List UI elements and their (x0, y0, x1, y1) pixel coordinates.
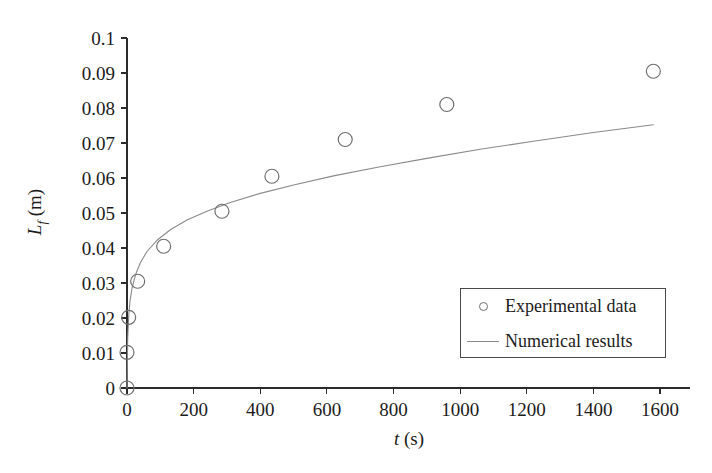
experimental-data-point (646, 64, 660, 78)
x-axis-tick-label: 1200 (508, 400, 546, 419)
legend-item-experimental-data: Experimental data (461, 289, 665, 324)
y-axis-tick-label: 0.1 (0, 29, 115, 48)
x-axis-tick-label: 1400 (574, 400, 612, 419)
x-axis-title: t (s) (394, 428, 424, 450)
x-axis-tick-label: 1600 (641, 400, 679, 419)
y-axis-unit: (m) (24, 189, 45, 221)
y-axis-subscript: f (34, 221, 49, 225)
legend-marker-line-icon (461, 341, 505, 342)
x-axis-tick-label: 400 (246, 400, 275, 419)
x-axis-unit: (s) (399, 428, 424, 449)
legend-label-experimental-data: Experimental data (505, 296, 636, 317)
y-axis-tick-label: 0.09 (0, 64, 115, 83)
y-axis-tick-label: 0.06 (0, 169, 115, 188)
x-axis-tick-label: 800 (379, 400, 408, 419)
legend-marker-circle-icon (461, 302, 505, 311)
y-axis-tick-label: 0 (0, 379, 115, 398)
chart-legend: Experimental data Numerical results (460, 288, 666, 358)
x-axis-tick-label: 200 (179, 400, 208, 419)
x-axis-tick-label: 1000 (441, 400, 479, 419)
legend-label-numerical-results: Numerical results (505, 331, 632, 352)
experimental-data-point (215, 204, 229, 218)
y-axis-tick-label: 0.05 (0, 204, 115, 223)
y-axis-tick-label: 0.07 (0, 134, 115, 153)
experimental-data-point (157, 239, 171, 253)
legend-item-numerical-results: Numerical results (461, 324, 665, 359)
y-axis-variable: L (24, 225, 45, 236)
chart-figure: 00.010.020.030.040.050.060.070.080.090.1… (0, 0, 712, 473)
y-axis-tick-label: 0.04 (0, 239, 115, 258)
x-axis-tick-label: 0 (122, 400, 132, 419)
y-axis-tick-label: 0.02 (0, 309, 115, 328)
experimental-data-point (440, 98, 454, 112)
experimental-data-point (338, 133, 352, 147)
x-axis-tick-label: 600 (313, 400, 342, 419)
y-axis-tick-label: 0.01 (0, 344, 115, 363)
y-axis-title: Lf (m) (24, 189, 50, 235)
experimental-data-point (265, 169, 279, 183)
experimental-data-point (131, 274, 145, 288)
y-axis-tick-label: 0.03 (0, 274, 115, 293)
y-axis-tick-label: 0.08 (0, 99, 115, 118)
